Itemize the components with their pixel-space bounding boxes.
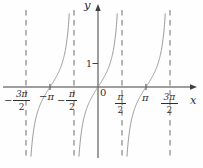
fraction-numerator: π bbox=[66, 89, 77, 101]
y-axis-label: y bbox=[84, 0, 91, 12]
fraction: 3π2 bbox=[161, 92, 178, 115]
tan-plot-canvas bbox=[0, 0, 203, 168]
x-tick-label-3pi-over-2: 3π2 bbox=[161, 92, 178, 115]
minus-sign: − bbox=[57, 96, 65, 106]
fraction-numerator: 3π bbox=[161, 92, 178, 104]
fraction-numerator: π bbox=[115, 92, 126, 104]
x-tick-label-pi: π bbox=[142, 93, 149, 103]
origin-label: 0 bbox=[100, 88, 106, 98]
minus-sign: − bbox=[4, 96, 12, 106]
fraction-denominator: 2 bbox=[69, 101, 75, 112]
x-tick-label-neg-pi: −π bbox=[39, 92, 54, 102]
fraction-numerator: 3π bbox=[13, 89, 30, 101]
tangent-function-figure: y x 0 1 −π π − 3π2 − π2 π2 3π2 bbox=[0, 0, 203, 168]
fraction: π2 bbox=[115, 92, 126, 115]
fraction-denominator: 2 bbox=[19, 101, 25, 112]
y-tick-label-1: 1 bbox=[86, 59, 92, 69]
fraction: 3π2 bbox=[13, 89, 30, 112]
fraction-denominator: 2 bbox=[166, 104, 172, 115]
x-tick-label-neg-3pi-over-2: − 3π2 bbox=[4, 89, 30, 112]
x-tick-label-neg-pi-over-2: − π2 bbox=[57, 89, 77, 112]
x-axis-label: x bbox=[190, 95, 197, 107]
x-tick-label-pi-over-2: π2 bbox=[115, 92, 126, 115]
fraction: π2 bbox=[66, 89, 77, 112]
fraction-denominator: 2 bbox=[118, 104, 124, 115]
